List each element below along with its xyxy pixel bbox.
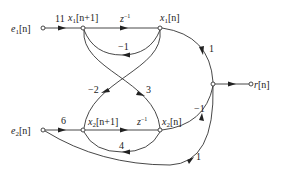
label-x2-next: x2[n+1]: [87, 116, 118, 129]
arrow-icon: [199, 113, 204, 121]
gain-1-bottom: 1: [196, 151, 201, 162]
node-x1-next: [81, 26, 85, 30]
arrow-icon: [120, 128, 128, 133]
gain-6: 6: [61, 115, 66, 126]
arrow-icon: [228, 82, 236, 87]
arrow-icon: [120, 26, 128, 31]
gain-z-inv-2: z−1: [136, 116, 147, 127]
node-out: [211, 82, 215, 86]
arrow-icon: [58, 26, 66, 31]
node-x1: [158, 26, 162, 30]
gain-z-inv-1: z−1: [119, 13, 130, 24]
arrow-icon: [187, 157, 194, 164]
arrow-icon: [199, 46, 204, 55]
node-e1: [41, 26, 45, 30]
label-x2: x2[n]: [161, 116, 182, 129]
gain-1-top: 1: [209, 43, 214, 54]
gain-neg1-bottom: −1: [194, 103, 205, 114]
arrow-icon: [136, 91, 145, 96]
label-e2: e2[n]: [11, 125, 31, 138]
arrow-icon: [122, 53, 130, 58]
node-x2-next: [81, 128, 85, 132]
gain-3: 3: [146, 84, 151, 95]
gain-11: 11: [55, 13, 65, 24]
gain-4: 4: [119, 140, 124, 151]
label-x1-next: x1[n+1]: [67, 12, 98, 25]
label-x1: x1[n]: [159, 12, 180, 25]
node-x2: [158, 128, 162, 132]
node-r: [249, 82, 253, 86]
edge-x1-out: [162, 28, 213, 82]
label-r: r[n]: [254, 79, 270, 90]
gain-neg2: −2: [88, 84, 99, 95]
node-e2: [41, 128, 45, 132]
gain-neg1-top: −1: [118, 41, 129, 52]
signal-flow-graph: e1[n] x1[n+1] x1[n] r[n] e2[n] x2[n+1] x…: [0, 0, 283, 175]
arrow-icon: [58, 128, 66, 133]
label-e1: e1[n]: [11, 23, 31, 36]
